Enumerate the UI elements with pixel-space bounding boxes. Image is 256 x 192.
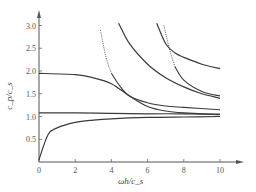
y-tick-label: 3.0 [26, 22, 36, 31]
curve-mode-1b [111, 73, 220, 109]
ticks [39, 26, 220, 163]
y-tick-label: 1.0 [26, 113, 36, 122]
y-tick-label: 2.5 [26, 44, 36, 53]
curves [39, 23, 220, 160]
curve-mode-2c [175, 67, 220, 97]
curve-mode-0 [39, 117, 220, 160]
y-axis-label: c_p/c_s [4, 82, 14, 110]
x-tick-label: 6 [146, 166, 150, 175]
y-tick-label: 2.0 [26, 67, 36, 76]
tick-labels: 02468100.51.01.52.02.53.0 [26, 22, 224, 176]
curve-mode-2a [119, 23, 220, 98]
x-tick-label: 2 [73, 166, 77, 175]
x-tick-label: 8 [182, 166, 186, 175]
x-axis-label: ωh/c_s [118, 176, 144, 186]
dispersion-chart: 02468100.51.01.52.02.53.0 ωh/c_s c_p/c_s [0, 0, 256, 192]
curve-mode-1b-dotted [101, 30, 112, 73]
axes [39, 14, 240, 162]
y-tick-label: 1.5 [26, 90, 36, 99]
x-tick-label: 0 [37, 166, 41, 175]
x-tick-label: 4 [109, 166, 113, 175]
curve-mode-2c-dotted [164, 26, 175, 67]
curve-mode-2b [157, 23, 220, 68]
x-axis-arrow-icon [236, 160, 244, 164]
x-tick-label: 10 [216, 166, 224, 175]
y-axis-arrow-icon [37, 10, 41, 18]
y-tick-label: 0.5 [26, 135, 36, 144]
